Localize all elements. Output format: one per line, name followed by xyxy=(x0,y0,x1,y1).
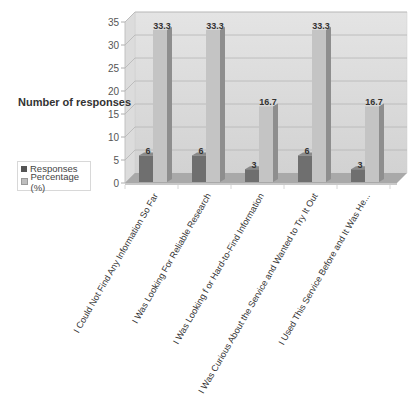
bar-percentage-1 xyxy=(206,27,225,182)
bar-percentage-4 xyxy=(365,103,384,182)
svg-text:15: 15 xyxy=(108,109,120,120)
legend-item-percentage: Percentage (%) xyxy=(18,175,90,188)
legend-swatch-responses xyxy=(21,166,27,172)
value-label: 33.3 xyxy=(153,21,171,31)
svg-text:10: 10 xyxy=(108,132,120,143)
svg-text:25: 25 xyxy=(108,63,120,74)
svg-text:0: 0 xyxy=(113,178,119,189)
value-label: 16.7 xyxy=(365,97,383,107)
value-label: 33.3 xyxy=(206,21,224,31)
value-label: 16.7 xyxy=(259,97,277,107)
value-label: 3 xyxy=(251,160,256,170)
svg-text:35: 35 xyxy=(108,17,120,28)
legend-swatch-percentage xyxy=(21,178,28,185)
svg-text:5: 5 xyxy=(113,155,119,166)
value-label: 6 xyxy=(198,146,203,156)
legend-label-percentage: Percentage (%) xyxy=(31,171,91,193)
bar-percentage-0 xyxy=(153,27,172,182)
bar-percentage-2 xyxy=(259,103,278,182)
value-label: 6 xyxy=(304,146,309,156)
value-label: 6 xyxy=(145,146,150,156)
value-label: 3 xyxy=(357,160,362,170)
svg-text:20: 20 xyxy=(108,86,120,97)
legend: Responses Percentage (%) xyxy=(17,161,91,191)
y-axis-title: Number of responses xyxy=(18,96,131,108)
svg-text:30: 30 xyxy=(108,40,120,51)
bar-percentage-3 xyxy=(312,27,331,182)
value-label: 33.3 xyxy=(312,21,330,31)
